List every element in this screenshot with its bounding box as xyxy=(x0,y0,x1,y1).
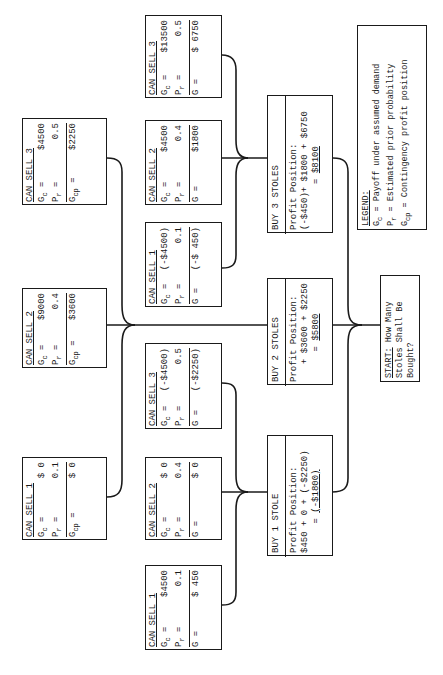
legend-heading: LEGEND: xyxy=(361,21,372,226)
buy3-title: BUY 3 STOLES xyxy=(268,96,286,234)
outcome-buy1-can-sell-1: CAN SELL 1 Gc =$4500 Pr =0.1 G =$ 450 xyxy=(145,565,222,650)
outcome-buy3-can-sell-3: CAN SELL 3 Gc =$13500 Pr =0.5 G =$ 6750 xyxy=(145,15,222,98)
decision-buy-1: BUY 1 STOLE Profit Position: $450 + 0 + … xyxy=(267,435,333,556)
outcome-buy2-can-sell-2: CAN SELL 2 Gc =$9000 Pr =0.4 Gcp =$3600 xyxy=(22,288,107,368)
legend-box: LEGEND: Gc = Payoff under assumed demand… xyxy=(357,25,427,230)
decision-buy-2: BUY 2 STOLES Profit Position: + $3600 + … xyxy=(267,278,333,385)
start-node: START: How Many Stoles Shall Be Bought? xyxy=(380,275,420,382)
buy2-total: $5800 xyxy=(311,314,321,341)
buy1-title: BUY 1 STOLE xyxy=(268,436,286,557)
legend-item-probability: Pr = Estimated prior probability xyxy=(386,21,400,226)
outcome-buy2-can-sell-1: CAN SELL 1 Gc =$ 0 Pr =0.1 Gcp =$ 0 xyxy=(22,457,107,540)
buy3-total: $8100 xyxy=(311,146,321,173)
outcome-buy1-can-sell-2: CAN SELL 2 Gc =$ 0 Pr =0.4 G =$ 0 xyxy=(145,457,222,540)
buy1-total: (-$1800) xyxy=(311,469,321,512)
start-label: START: xyxy=(384,347,394,378)
outcome-buy3-can-sell-1: CAN SELL 1 Gc =(-$4500) Pr =0.1 G =(-$ 4… xyxy=(145,222,222,307)
legend-item-payoff: Gc = Payoff under assumed demand xyxy=(372,21,386,226)
outcome-buy2-can-sell-3: CAN SELL 3 Gc =$4500 Pr =0.5 Gcp =$2250 xyxy=(22,118,107,205)
buy2-title: BUY 2 STOLES xyxy=(268,279,286,386)
outcome-buy3-can-sell-2: CAN SELL 2 Gc =$4500 Pr =0.4 G =$1800 xyxy=(145,120,222,205)
decision-buy-3: BUY 3 STOLES Profit Position: (-$450)+ $… xyxy=(267,95,333,233)
legend-item-contingency: Gcp = Contingency profit position xyxy=(400,21,414,226)
outcome-buy1-can-sell-3: CAN SELL 3 Gc =(-$4500) Pr =0.5 G =(-$22… xyxy=(145,343,222,429)
